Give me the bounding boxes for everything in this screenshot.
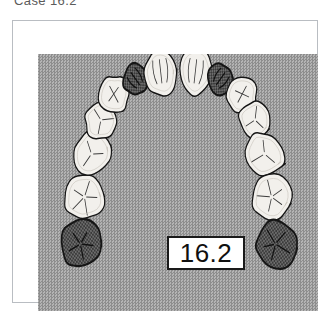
figure-frame: 16.2: [12, 20, 318, 303]
tooth-outline: [254, 217, 300, 272]
dental-arch-panel: 16.2: [38, 54, 318, 311]
tooth-outline: [142, 54, 180, 99]
tooth-upper-right-first-molar[interactable]: [60, 169, 107, 224]
measurement-value-box: 16.2: [167, 236, 245, 270]
tooth-upper-left-first-molar[interactable]: [249, 168, 295, 226]
measurement-value-text: 16.2: [180, 240, 233, 266]
tooth-outline: [249, 168, 295, 226]
tooth-upper-left-second-molar[interactable]: [254, 217, 300, 272]
dental-arch-diagram: [38, 54, 318, 311]
tooth-upper-right-central-incisor[interactable]: [142, 54, 180, 99]
tooth-upper-right-second-molar[interactable]: [59, 216, 103, 269]
figure-caption: Case 16.2: [14, 0, 77, 8]
